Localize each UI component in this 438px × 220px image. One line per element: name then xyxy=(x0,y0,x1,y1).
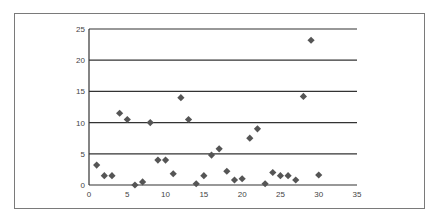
diamond-marker xyxy=(223,168,230,175)
diamond-marker xyxy=(147,119,154,126)
diamond-marker xyxy=(162,156,169,163)
diamond-marker xyxy=(93,161,100,168)
diamond-marker xyxy=(108,172,115,179)
diamond-marker xyxy=(177,94,184,101)
x-tick-label: 20 xyxy=(238,190,247,199)
x-tick-label: 15 xyxy=(199,190,208,199)
y-tick-label: 10 xyxy=(76,119,85,128)
diamond-marker xyxy=(116,110,123,117)
x-tick-label: 5 xyxy=(125,190,130,199)
diamond-marker xyxy=(277,172,284,179)
diamond-marker xyxy=(200,172,207,179)
diamond-marker xyxy=(246,135,253,142)
diamond-marker xyxy=(307,37,314,44)
diamond-marker xyxy=(208,151,215,158)
diamond-marker xyxy=(170,170,177,177)
diamond-marker xyxy=(216,145,223,152)
y-tick-label: 20 xyxy=(76,56,85,65)
diamond-marker xyxy=(254,125,261,132)
diamond-marker xyxy=(292,176,299,183)
gridlines xyxy=(89,29,357,154)
diamond-marker xyxy=(154,156,161,163)
x-tick-label: 0 xyxy=(87,190,92,199)
diamond-marker xyxy=(315,171,322,178)
diamond-marker xyxy=(269,169,276,176)
diamond-marker xyxy=(239,175,246,182)
data-points xyxy=(93,37,322,189)
y-tick-label: 0 xyxy=(81,181,86,190)
x-axis-ticks: 05101520253035 xyxy=(87,190,362,199)
x-tick-label: 30 xyxy=(314,190,323,199)
diamond-marker xyxy=(193,180,200,187)
y-tick-label: 25 xyxy=(76,25,85,34)
y-tick-label: 15 xyxy=(76,87,85,96)
axes xyxy=(89,29,357,185)
diamond-marker xyxy=(300,93,307,100)
y-axis-ticks: 0510152025 xyxy=(76,25,85,190)
diamond-marker xyxy=(262,180,269,187)
x-tick-label: 25 xyxy=(276,190,285,199)
diamond-marker xyxy=(231,176,238,183)
diamond-marker xyxy=(284,172,291,179)
y-tick-label: 5 xyxy=(81,150,86,159)
x-tick-label: 35 xyxy=(353,190,362,199)
diamond-marker xyxy=(131,181,138,188)
diamond-marker xyxy=(101,172,108,179)
scatter-chart: 0510152025 05101520253035 xyxy=(0,0,438,220)
x-tick-label: 10 xyxy=(161,190,170,199)
